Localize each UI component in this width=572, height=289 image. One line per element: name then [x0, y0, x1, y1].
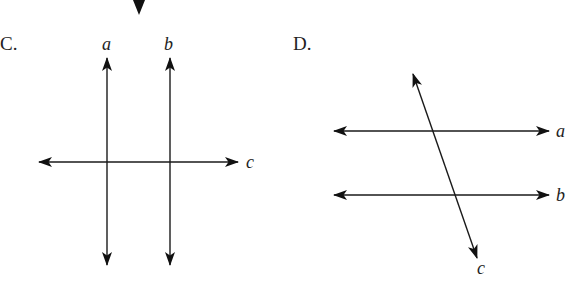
line-b-label: b: [164, 34, 173, 54]
figure-c: C. a b c: [0, 33, 254, 265]
option-label-d: D.: [293, 33, 311, 54]
line-c-label: c: [477, 258, 485, 278]
option-label-c: C.: [0, 33, 17, 54]
line-c-transversal: [445, 166, 477, 258]
geometry-figures: C. a b c D. a b c: [0, 0, 572, 289]
line-c-transversal: [413, 74, 445, 166]
line-a-label: a: [102, 34, 111, 54]
line-b-label: b: [556, 185, 565, 205]
cropped-arrowhead-icon: [133, 0, 145, 15]
line-a-label: a: [556, 121, 565, 141]
line-c-label: c: [246, 152, 254, 172]
figure-d: D. a b c: [293, 33, 565, 278]
